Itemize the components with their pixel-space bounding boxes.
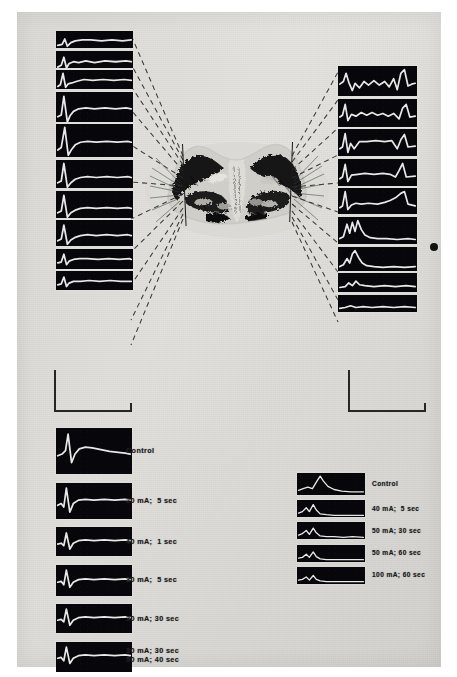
right-trace-strip-2 — [338, 99, 417, 127]
bottom-right-label-1: Control — [372, 480, 398, 488]
bottom-right-strip-4 — [297, 545, 365, 562]
bottom-right-label-2: 40 mA; 5 sec — [372, 505, 419, 513]
left-trace-strip-2 — [56, 51, 133, 68]
bottom-left-strip-1 — [56, 428, 132, 474]
left-trace-strip-8 — [56, 220, 133, 246]
bottom-right-strip-5 — [297, 567, 365, 584]
right-trace-strip-7 — [338, 247, 417, 271]
bottom-left-label-6: 30 mA; 30 sec 50 mA; 40 sec — [126, 646, 179, 664]
left-trace-strip-5 — [56, 124, 133, 157]
right-trace-strip-3 — [338, 129, 417, 156]
bottom-left-label-1: Control — [126, 446, 154, 455]
bottom-right-label-4: 50 mA; 60 sec — [372, 549, 421, 557]
left-trace-strip-3 — [56, 70, 133, 89]
bottom-left-label-4: 30 mA; 5 sec — [126, 575, 177, 584]
right-trace-strip-1 — [338, 66, 417, 96]
bottom-left-strip-6 — [56, 642, 132, 672]
right-trace-strip-5 — [338, 188, 417, 214]
bottom-left-strip-5 — [56, 604, 132, 633]
bottom-right-strip-2 — [297, 500, 365, 517]
right-trace-strip-6 — [338, 217, 417, 244]
left-calibration-bracket — [54, 370, 132, 412]
figure-plate: Control20 mA; 5 sec40 mA; 1 sec30 mA; 5 … — [0, 0, 457, 677]
left-trace-strip-4 — [56, 92, 133, 122]
bottom-right-label-3: 50 mA; 30 sec — [372, 527, 421, 535]
bottom-left-strip-2 — [56, 483, 132, 519]
left-trace-strip-7 — [56, 191, 133, 218]
bottom-left-label-3: 40 mA; 1 sec — [126, 537, 177, 546]
left-trace-strip-1 — [56, 31, 133, 48]
bottom-left-strip-4 — [56, 565, 132, 596]
bottom-right-label-5: 100 mA; 60 sec — [372, 571, 425, 579]
bottom-right-strip-3 — [297, 522, 365, 539]
left-trace-strip-9 — [56, 249, 133, 269]
reference-dot — [430, 243, 438, 251]
right-trace-strip-9 — [338, 295, 417, 312]
bottom-left-label-2: 20 mA; 5 sec — [126, 496, 177, 505]
right-calibration-bracket — [348, 370, 426, 412]
left-trace-strip-6 — [56, 160, 133, 188]
bottom-right-strip-1 — [297, 473, 365, 495]
bottom-left-label-5: 30 mA; 30 sec — [126, 614, 179, 623]
left-trace-strip-10 — [56, 271, 133, 290]
right-trace-strip-4 — [338, 159, 417, 186]
right-trace-strip-8 — [338, 273, 417, 292]
bottom-left-strip-3 — [56, 527, 132, 556]
